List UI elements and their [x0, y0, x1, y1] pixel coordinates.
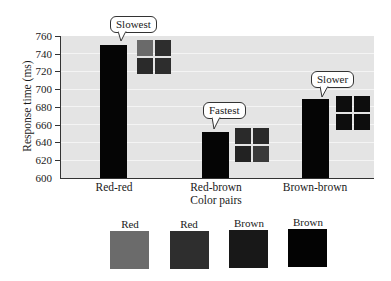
swatch-label: Brown [278, 216, 338, 228]
y-tick [55, 36, 60, 37]
swatch-brown-light [229, 230, 268, 268]
callout-text: Slowest [116, 18, 151, 30]
y-tick-label: 600 [18, 173, 52, 184]
y-tick [55, 160, 60, 161]
callout-slower: Slower [311, 71, 354, 88]
x-axis-label: Color pairs [166, 194, 266, 206]
bar-brown-brown [302, 99, 329, 178]
color-square [137, 40, 153, 56]
color-square [235, 128, 251, 144]
color-square [155, 40, 171, 56]
y-tick [55, 54, 60, 55]
swatch-red-light [110, 231, 149, 269]
x-tick-label: Red-red [64, 181, 164, 193]
color-square [336, 114, 352, 130]
x-axis [60, 178, 374, 179]
swatch-label: Brown [219, 217, 279, 229]
swatch-label: Red [159, 218, 219, 230]
bar-red-brown [202, 132, 229, 178]
x-tick-label: Brown-brown [265, 181, 365, 193]
callout-tail [320, 86, 330, 99]
color-square [354, 96, 370, 112]
color-squares-red-brown [235, 128, 271, 164]
swatch-red-dark [170, 231, 209, 269]
color-square [137, 58, 153, 74]
callout-fastest: Fastest [203, 102, 246, 119]
y-tick [55, 89, 60, 90]
callout-tail [118, 31, 128, 43]
callout-tail [212, 117, 222, 131]
swatch-label: Red [100, 218, 160, 230]
color-square [354, 114, 370, 130]
y-tick [55, 71, 60, 72]
y-tick [55, 107, 60, 108]
callout-text: Slower [317, 73, 348, 85]
color-square [235, 146, 251, 162]
y-tick [55, 125, 60, 126]
color-square [336, 96, 352, 112]
color-square [253, 146, 269, 162]
y-tick [55, 142, 60, 143]
color-square [155, 58, 171, 74]
color-squares-red-red [137, 40, 173, 76]
color-square [253, 128, 269, 144]
x-tick-label: Red-brown [166, 181, 266, 193]
callout-text: Fastest [209, 104, 240, 116]
bar-red-red [100, 45, 127, 178]
swatch-brown-dark [288, 229, 327, 267]
color-squares-brown-brown [336, 96, 372, 132]
y-axis [60, 36, 61, 179]
y-axis-label: Response time (ms) [21, 41, 33, 171]
